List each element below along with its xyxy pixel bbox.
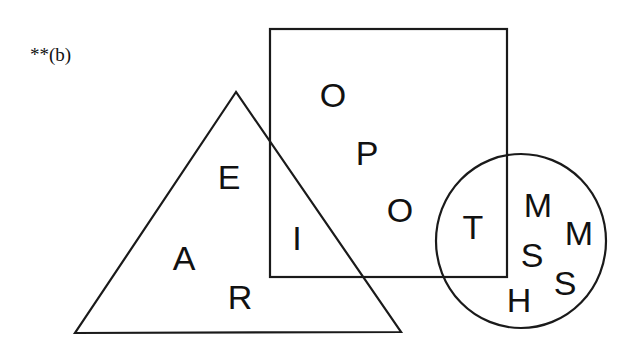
- letter-e: E: [218, 158, 241, 196]
- venn-diagram: **(b) O P O E I A R T M M S S H: [0, 0, 639, 361]
- letter-s-left: S: [521, 236, 544, 274]
- letter-o-top: O: [320, 76, 346, 114]
- letter-i: I: [292, 219, 301, 257]
- figure-label: **(b): [30, 44, 71, 66]
- letter-s-right: S: [554, 264, 577, 302]
- letter-m-right: M: [565, 214, 593, 252]
- letter-t: T: [463, 208, 484, 246]
- letter-o-lower: O: [387, 191, 413, 229]
- letter-m-upper: M: [524, 186, 552, 224]
- letters-group: O P O E I A R T M M S S H: [173, 76, 594, 319]
- letter-r: R: [228, 278, 253, 316]
- letter-a: A: [173, 239, 196, 277]
- letter-p: P: [356, 134, 379, 172]
- letter-h: H: [507, 281, 532, 319]
